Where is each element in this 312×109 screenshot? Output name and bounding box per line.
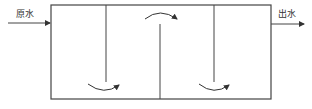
- flow-over-arrow-icon: [145, 13, 177, 19]
- flow-under-arrow-icon: [199, 84, 229, 90]
- inlet: 原水: [8, 8, 50, 23]
- flow-under-arrow-icon: [88, 84, 119, 90]
- baffled-tank-diagram: 原水 出水: [0, 0, 312, 109]
- outlet: 出水: [271, 8, 304, 24]
- inlet-label: 原水: [16, 8, 34, 19]
- tank-outline: [51, 5, 271, 99]
- outlet-label: 出水: [278, 8, 296, 19]
